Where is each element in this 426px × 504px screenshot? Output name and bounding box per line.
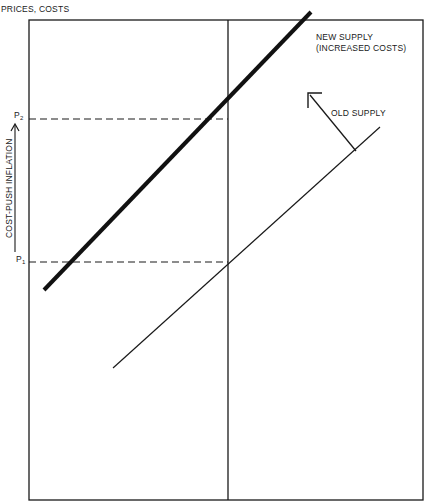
supply-shift-arrow-icon (308, 93, 356, 151)
plot-frame (29, 20, 423, 500)
new-supply-label: NEW SUPPLY (316, 32, 373, 42)
cost-push-inflation-diagram: PRICES, COSTS NEW SUPPLY (INCREASED COST… (0, 0, 426, 504)
old-supply-label: OLD SUPPLY (331, 108, 386, 118)
new-supply-curve (44, 12, 311, 290)
p2-label: P2 (14, 110, 24, 121)
old-supply-curve (113, 127, 380, 368)
new-supply-sublabel: (INCREASED COSTS) (316, 43, 406, 53)
cost-push-inflation-label: COST-PUSH INFLATION (4, 138, 14, 238)
p1-label: P1 (16, 254, 26, 265)
y-axis-label: PRICES, COSTS (1, 4, 69, 14)
